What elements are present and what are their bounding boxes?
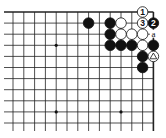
white-stone [137,40,148,51]
black-stone [83,18,94,29]
point-labels: a [150,29,157,39]
move-number: 1 [140,7,145,17]
black-stone [137,51,148,62]
black-stone [105,40,116,51]
white-stone [137,29,148,40]
white-stone [116,29,127,40]
black-stone [116,40,127,51]
black-stone [105,18,116,29]
go-board-diagram: 123 a [0,0,166,138]
black-stone: 2 [148,18,159,29]
white-stone: 1 [137,7,148,18]
black-stone [148,40,159,51]
white-stone [116,18,127,29]
star-point [55,110,58,113]
point-label: a [151,29,155,39]
black-stone [105,29,116,40]
black-stone [137,62,148,73]
move-number: 2 [151,18,156,28]
white-stone [148,51,159,62]
white-stone [127,29,138,40]
star-point [119,110,122,113]
star-point [55,44,58,47]
white-stone: 3 [137,18,148,29]
black-stone [127,40,138,51]
move-number: 3 [140,18,145,28]
